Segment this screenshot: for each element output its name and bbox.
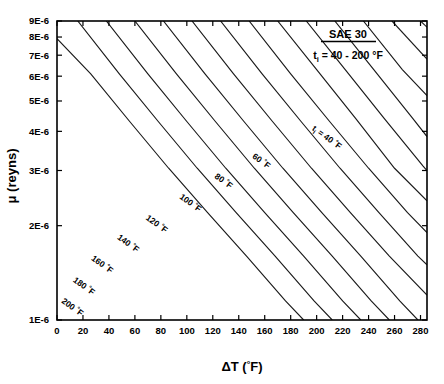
svg-text:100 °F: 100 °F [178,191,204,214]
y-tick-label: 6E-6 [29,71,49,82]
curve-label-180-f: 180 °F [71,274,97,297]
y-tick-label: 5E-6 [29,95,49,106]
curve-labels-group: ti = 40 °F60 °F80 °F100 °F120 °F140 °F16… [60,123,344,318]
curve-140-f [135,21,389,320]
y-axis-title: μ (reyns) [4,149,19,204]
x-tick-label: 40 [104,325,115,336]
y-tick-label: 2E-6 [29,220,49,231]
x-tick-label: 260 [387,325,403,336]
x-tick-label: 140 [231,325,247,336]
svg-text:200 °F: 200 °F [60,295,86,318]
y-tick-label: 9E-6 [29,15,49,26]
curve-label-160-f: 160 °F [90,253,116,276]
curve-unlabeled-1 [306,21,427,171]
legend-condition-unit: °F [372,49,383,61]
curve-120-f [163,21,417,320]
faint-caption [0,374,444,384]
y-tick-label: 3E-6 [29,165,49,176]
curve-unlabeled-5 [421,21,427,27]
curve-100-f [192,21,427,295]
x-tick-label: 120 [205,325,221,336]
curve-series-group [57,21,427,320]
x-tick-label: 80 [156,325,167,336]
x-axis-title: ΔT (°F) [221,359,262,374]
curve-label-200-f: 200 °F [60,295,86,318]
curve-label-100-f: 100 °F [178,191,204,214]
curve-unlabeled-4 [392,21,427,59]
y-tick-label: 4E-6 [29,126,49,137]
svg-text:160 °F: 160 °F [90,253,116,276]
chart-svg: 020406080100120140160180200220240260280 … [0,0,444,384]
legend-condition-value: = 40 - 200 [319,49,372,61]
x-tick-label: 240 [361,325,377,336]
x-tick-label: 200 [309,325,325,336]
viscosity-chart-figure: 020406080100120140160180200220240260280 … [0,0,444,384]
curve-label-120-f: 120 °F [144,212,170,235]
curve-label-140-f: 140 °F [116,232,142,255]
x-tick-label: 220 [335,325,351,336]
legend-condition: ti = 40 - 200 °F [313,49,383,64]
curve-label-80-f: 80 °F [213,171,235,191]
x-tick-label: 180 [283,325,299,336]
curve-40-f [278,21,427,201]
svg-text:140 °F: 140 °F [116,232,142,255]
y-tick-label: 8E-6 [29,31,49,42]
x-tick-label: 280 [413,325,429,336]
x-tick-label: 60 [130,325,141,336]
y-tick-label: 1E-6 [29,314,49,325]
legend-title: SAE 30 [329,28,367,40]
x-tick-label: 0 [54,325,59,336]
y-tick-label: 7E-6 [29,50,49,61]
x-tick-label: 160 [257,325,273,336]
x-tick-label: 20 [78,325,89,336]
curve-200-f [57,39,304,320]
svg-text:80 °F: 80 °F [213,171,235,191]
curve-160-f [106,21,360,320]
curve-180-f [78,21,332,320]
svg-text:180 °F: 180 °F [71,274,97,297]
x-tick-label: 100 [179,325,195,336]
svg-text:120 °F: 120 °F [144,212,170,235]
